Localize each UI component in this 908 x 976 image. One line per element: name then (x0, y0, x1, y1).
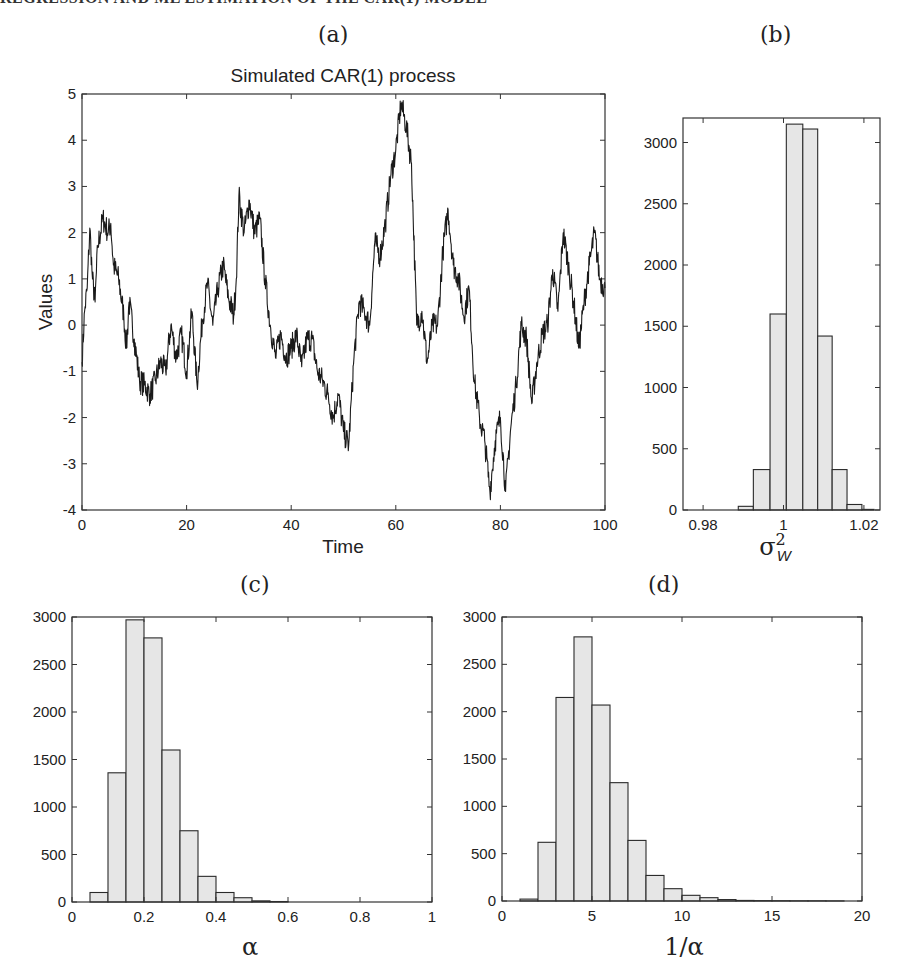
chart-a-xlabel: Time (322, 536, 364, 557)
y-tick-label: 1 (68, 270, 76, 287)
y-tick-label: 1000 (644, 379, 677, 396)
y-tick-label: 2000 (33, 703, 66, 720)
chart-a-ylabel: Values (35, 274, 56, 331)
histogram-bar (108, 773, 126, 902)
histogram-bar (682, 895, 700, 901)
y-tick-label: 5 (68, 85, 76, 102)
histogram-bar (216, 893, 234, 903)
histogram-bar (234, 898, 252, 902)
histogram-bar (126, 620, 144, 902)
y-tick-label: 500 (652, 440, 677, 457)
x-tick-label: 0.2 (134, 908, 155, 925)
y-tick-label: 1000 (33, 798, 66, 815)
x-tick-label: 0.98 (689, 516, 718, 533)
y-tick-label: 3000 (463, 608, 496, 625)
y-tick-label: 0 (488, 892, 496, 909)
chart-d-xlabel: 1/α (664, 933, 704, 961)
chart-b: 050010001500200025003000 0.9811.02 σ2W (644, 118, 880, 564)
chart-c-bars (90, 620, 288, 902)
x-tick-label: 20 (854, 907, 871, 924)
x-tick-label: 60 (387, 516, 404, 533)
x-tick-label: 10 (674, 907, 691, 924)
y-tick-label: 0 (58, 893, 66, 910)
y-tick-label: 2000 (463, 703, 496, 720)
histogram-bar (832, 470, 847, 510)
y-tick-label: 2000 (644, 256, 677, 273)
chart-a-title: Simulated CAR(1) process (231, 65, 456, 86)
x-tick-label: 1 (428, 908, 436, 925)
chart-b-yticks: 050010001500200025003000 (644, 134, 880, 519)
y-tick-label: 2500 (463, 655, 496, 672)
y-tick-label: 1500 (463, 750, 496, 767)
y-tick-label: -3 (63, 455, 76, 472)
histogram-bar (847, 504, 862, 510)
x-tick-label: 100 (592, 516, 617, 533)
histogram-bar (90, 893, 108, 903)
histogram-bar (180, 831, 198, 902)
y-tick-label: 0 (669, 501, 677, 518)
y-tick-label: 3 (68, 177, 76, 194)
x-tick-label: 40 (283, 516, 300, 533)
histogram-bar (664, 889, 682, 901)
figure-canvas: Simulated CAR(1) process -4-3-2-1012345 … (0, 0, 908, 976)
chart-b-xlabel: σ2W (759, 530, 793, 564)
y-tick-label: -1 (63, 362, 76, 379)
histogram-bar (803, 129, 818, 510)
x-tick-label: 80 (492, 516, 509, 533)
chart-c-xlabel: α (242, 933, 258, 961)
chart-d-bars (520, 637, 844, 901)
histogram-bar (818, 336, 832, 510)
histogram-bar (556, 697, 574, 901)
x-tick-label: 0 (498, 907, 506, 924)
x-tick-label: 0.8 (350, 908, 371, 925)
y-tick-label: 2500 (33, 656, 66, 673)
y-tick-label: -4 (63, 501, 76, 518)
y-tick-label: -2 (63, 409, 76, 426)
y-tick-label: 0 (68, 316, 76, 333)
y-tick-label: 3000 (644, 134, 677, 151)
histogram-bar (646, 875, 664, 901)
y-tick-label: 500 (41, 846, 66, 863)
y-tick-label: 500 (471, 845, 496, 862)
chart-b-bars (738, 124, 874, 510)
chart-c: 050010001500200025003000 00.20.40.60.81 … (33, 608, 437, 961)
histogram-bar (198, 876, 216, 902)
histogram-bar (628, 840, 646, 901)
x-tick-label: 0.6 (278, 908, 299, 925)
x-tick-label: 1.02 (849, 516, 878, 533)
chart-d-yticks: 050010001500200025003000 (463, 608, 862, 909)
histogram-bar (574, 637, 592, 901)
y-tick-label: 2500 (644, 195, 677, 212)
y-tick-label: 2 (68, 224, 76, 241)
x-tick-label: 0 (78, 516, 86, 533)
chart-d: 050010001500200025003000 05101520 1/α (463, 608, 871, 961)
histogram-bar (786, 124, 802, 510)
x-tick-label: 5 (588, 907, 596, 924)
histogram-bar (753, 470, 770, 510)
chart-c-yticks: 050010001500200025003000 (33, 608, 432, 910)
chart-a: Simulated CAR(1) process -4-3-2-1012345 … (35, 65, 618, 557)
x-tick-label: 20 (178, 516, 195, 533)
chart-a-series-line (82, 101, 605, 500)
chart-a-yticks: -4-3-2-1012345 (63, 85, 605, 518)
histogram-bar (538, 842, 556, 901)
x-tick-label: 0.4 (206, 908, 227, 925)
y-tick-label: 4 (68, 131, 76, 148)
chart-a-frame (82, 94, 605, 510)
x-tick-label: 15 (764, 907, 781, 924)
y-tick-label: 1500 (33, 751, 66, 768)
x-tick-label: 0 (68, 908, 76, 925)
histogram-bar (162, 750, 180, 902)
histogram-bar (144, 638, 162, 902)
y-tick-label: 3000 (33, 608, 66, 625)
chart-a-xticks: 020406080100 (78, 94, 618, 533)
histogram-bar (610, 783, 628, 901)
y-tick-label: 1000 (463, 797, 496, 814)
y-tick-label: 1500 (644, 317, 677, 334)
histogram-bar (770, 314, 786, 510)
histogram-bar (592, 705, 610, 901)
